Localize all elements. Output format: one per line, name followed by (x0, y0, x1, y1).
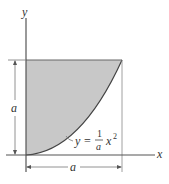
y-axis-label: y (21, 5, 28, 19)
horizontal-dimension-label: a (70, 160, 76, 174)
arrow-down-icon (13, 150, 17, 155)
vertical-dimension-label: a (11, 101, 17, 115)
equation-lhs: y = (74, 134, 91, 148)
fraction-denominator: a (96, 141, 101, 152)
equation-exponent: 2 (113, 132, 117, 141)
curve-equation: y = 1 a x 2 (74, 128, 117, 152)
arrow-up-icon (13, 60, 17, 65)
fraction-numerator: 1 (97, 128, 102, 139)
arrow-right-icon (117, 165, 122, 169)
svg-text:y =: y = (74, 134, 91, 148)
arrow-left-icon (26, 165, 31, 169)
area-diagram: y x a a y = 1 a x 2 (0, 0, 169, 184)
equation-term: x (105, 134, 112, 148)
x-axis-label: x (156, 147, 163, 161)
